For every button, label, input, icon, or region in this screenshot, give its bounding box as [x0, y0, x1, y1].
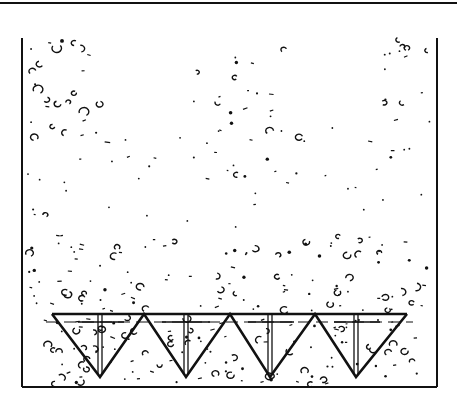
- grain: [308, 293, 310, 295]
- grain: [66, 100, 71, 104]
- grain: [218, 130, 220, 132]
- grain: [188, 328, 193, 332]
- grain: [30, 48, 32, 50]
- grain: [334, 335, 336, 337]
- grain: [303, 140, 305, 142]
- grain: [33, 85, 43, 93]
- grain: [193, 101, 195, 103]
- grain: [284, 290, 288, 291]
- grain: [296, 381, 299, 382]
- grain: [375, 365, 377, 367]
- grain: [409, 359, 414, 362]
- grain: [131, 297, 135, 299]
- grain: [32, 209, 34, 211]
- grain: [29, 68, 36, 73]
- grain: [269, 94, 274, 95]
- particle-cluster-upper-left: [29, 39, 110, 143]
- grain: [280, 307, 287, 314]
- grain: [110, 337, 115, 339]
- grain: [218, 96, 220, 97]
- grain: [225, 252, 228, 255]
- grain: [327, 302, 334, 307]
- grain: [243, 299, 245, 301]
- grain: [56, 349, 62, 353]
- grain: [90, 280, 92, 282]
- grain: [193, 156, 195, 158]
- grain: [368, 141, 372, 142]
- grain: [78, 380, 84, 385]
- grain: [132, 371, 134, 373]
- grain: [254, 192, 256, 194]
- grain: [396, 38, 400, 42]
- grain: [172, 239, 177, 243]
- grain: [234, 57, 236, 59]
- grain: [257, 305, 260, 308]
- grain: [26, 250, 34, 256]
- grain: [99, 265, 101, 267]
- grain: [266, 157, 269, 160]
- grain: [266, 127, 274, 133]
- grain: [336, 234, 340, 238]
- grain: [95, 132, 97, 134]
- grain: [108, 206, 110, 208]
- grain: [196, 70, 200, 74]
- grain: [31, 134, 39, 140]
- grain: [44, 341, 52, 347]
- grain: [231, 267, 235, 268]
- grain: [295, 134, 302, 140]
- grain: [206, 178, 210, 179]
- grain: [256, 92, 258, 94]
- grain: [311, 309, 313, 311]
- grain: [286, 182, 289, 183]
- grain: [73, 348, 75, 350]
- grain: [382, 294, 389, 300]
- grain: [334, 288, 338, 289]
- grain: [110, 310, 113, 311]
- grain: [150, 371, 154, 372]
- grain: [71, 91, 76, 95]
- grain: [124, 378, 126, 380]
- grain: [385, 349, 392, 354]
- grain: [225, 361, 227, 363]
- diagram-canvas: [0, 0, 457, 393]
- grain: [148, 165, 150, 167]
- grain: [408, 148, 410, 150]
- grain: [50, 125, 55, 129]
- grain: [79, 249, 83, 250]
- container-frame: [0, 3, 457, 387]
- grain: [36, 61, 42, 67]
- grain: [61, 364, 63, 366]
- grain: [204, 362, 206, 364]
- grain: [179, 137, 181, 139]
- grain: [30, 287, 33, 288]
- grain: [52, 46, 62, 53]
- grain: [51, 348, 55, 352]
- grain: [114, 348, 116, 350]
- grain: [225, 370, 227, 372]
- grain: [70, 246, 72, 248]
- grain: [331, 357, 333, 359]
- grain: [50, 303, 54, 304]
- grain: [232, 355, 238, 361]
- grain: [181, 351, 183, 353]
- grain: [391, 308, 393, 310]
- grain: [393, 365, 396, 366]
- grain: [79, 296, 85, 301]
- grain: [215, 102, 220, 105]
- grain: [59, 374, 66, 380]
- grain: [346, 326, 348, 328]
- grain: [252, 308, 254, 310]
- grain: [289, 325, 292, 326]
- grain: [401, 288, 406, 295]
- grain: [343, 252, 351, 258]
- grain: [79, 108, 89, 116]
- grain: [330, 245, 332, 247]
- grain: [60, 235, 63, 236]
- grain: [425, 49, 428, 53]
- grain: [30, 246, 33, 249]
- grain: [377, 319, 379, 321]
- grain: [81, 303, 83, 305]
- grain: [200, 305, 202, 307]
- particle-cluster-upper-middle-band: [193, 47, 302, 183]
- grain: [261, 319, 264, 320]
